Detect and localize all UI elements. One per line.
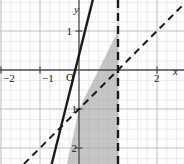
y-tick-label-neg1: 1	[72, 103, 78, 115]
y-axis-label: y	[73, 3, 79, 15]
x-tick-label-neg2: −2	[3, 72, 15, 84]
graph-figure: −2 −1 2 1 1 2 O y x	[0, 0, 184, 164]
x-tick-label-2: 2	[154, 72, 160, 84]
y-tick-label-1: 1	[67, 25, 73, 37]
x-axis-label: x	[172, 65, 178, 77]
coordinate-plane-svg: −2 −1 2 1 1 2 O y x	[0, 0, 184, 164]
x-tick-label-neg1: −1	[42, 72, 54, 84]
y-tick-label-neg2: 2	[72, 142, 78, 154]
origin-label: O	[66, 71, 74, 83]
